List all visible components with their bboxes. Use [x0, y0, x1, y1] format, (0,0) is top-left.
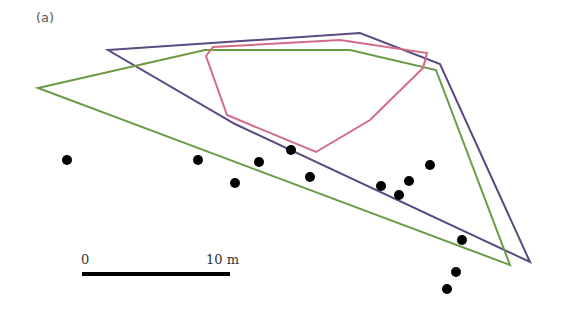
data-point	[193, 155, 203, 165]
data-point	[305, 172, 315, 182]
data-point	[286, 145, 296, 155]
data-point	[442, 284, 452, 294]
data-point	[376, 181, 386, 191]
data-point	[230, 178, 240, 188]
data-point	[62, 155, 72, 165]
spatial-plot	[0, 0, 585, 322]
pink-hull	[206, 40, 427, 152]
green-hull	[38, 50, 510, 265]
figure-canvas: (a) 0 10 m	[0, 0, 585, 322]
scale-end-label: 10 m	[206, 252, 239, 267]
data-point	[394, 190, 404, 200]
data-point	[457, 235, 467, 245]
data-point	[451, 267, 461, 277]
scale-start-label: 0	[81, 252, 89, 267]
data-point	[425, 160, 435, 170]
data-point	[404, 176, 414, 186]
purple-hull	[108, 33, 530, 262]
data-point	[254, 157, 264, 167]
